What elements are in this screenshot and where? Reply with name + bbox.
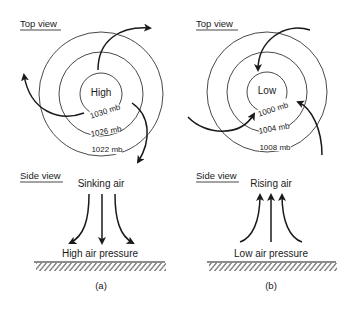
isobar-label: 1008 mb (259, 143, 291, 152)
center-label-low: Low (258, 85, 277, 96)
side-view-label: Side view (196, 170, 237, 181)
caption-b: (b) (265, 280, 277, 291)
air-motion-label: Sinking air (78, 178, 125, 189)
center-label-high: High (91, 87, 112, 98)
ground-hatch (36, 263, 166, 271)
arrow-icon (240, 195, 260, 242)
arrow-icon (188, 114, 254, 131)
arrow-icon (24, 75, 84, 116)
caption-a: (a) (95, 280, 107, 291)
isobar-label: 1022 mb (91, 145, 123, 154)
top-view-label: Top view (196, 18, 233, 29)
arrow-icon (98, 28, 150, 70)
pressure-label: Low air pressure (234, 248, 308, 259)
outflow-arrows (24, 28, 150, 162)
sinking-arrows (70, 194, 133, 243)
arrow-icon (132, 103, 147, 162)
isobar-label: 1004 mb (258, 121, 291, 135)
arrow-icon (115, 194, 133, 243)
inflow-arrows (188, 28, 322, 155)
arrow-icon (282, 195, 302, 242)
air-motion-label: Rising air (250, 178, 292, 189)
panel-b: Top view Low 1000 mb 1004 mb 1008 mb Sid… (188, 18, 337, 291)
top-view-label: Top view (20, 18, 57, 29)
side-view-label: Side view (20, 170, 61, 181)
ground-hatch (209, 263, 337, 271)
pressure-label: High air pressure (62, 248, 139, 259)
rising-arrows (240, 195, 302, 242)
panel-a: Top view High 1030 mb 1026 mb 1022 mb Si… (20, 18, 166, 291)
arrow-icon (298, 102, 322, 155)
arrow-icon (70, 194, 89, 243)
pressure-systems-diagram: Top view High 1030 mb 1026 mb 1022 mb Si… (0, 0, 353, 309)
